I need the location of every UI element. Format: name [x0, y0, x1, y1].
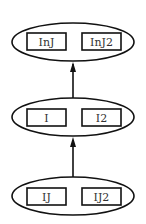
- box-i2: I2: [82, 109, 121, 126]
- box-i: I: [27, 109, 66, 126]
- box-injj: InJ: [27, 33, 66, 50]
- edge-middle-to-top: [70, 62, 76, 98]
- box-label: InJ2: [90, 36, 113, 49]
- box-label: I2: [96, 112, 107, 125]
- node-top: InJ InJ2: [12, 23, 134, 61]
- arrowhead-icon: [70, 62, 76, 72]
- box-label: IJ2: [94, 191, 110, 204]
- box-ij: IJ: [27, 188, 66, 205]
- box-injj2: InJ2: [82, 33, 121, 50]
- box-label: IJ: [42, 191, 51, 204]
- node-bottom: IJ IJ2: [12, 177, 134, 215]
- box-label: InJ: [39, 36, 55, 49]
- arrowhead-icon: [70, 137, 76, 147]
- edge-bottom-to-middle: [70, 137, 76, 177]
- node-middle: I I2: [12, 98, 134, 136]
- box-label: I: [44, 112, 48, 125]
- box-ij2: IJ2: [82, 188, 121, 205]
- diagram-canvas: InJ InJ2 I I2 IJ IJ2: [0, 0, 146, 224]
